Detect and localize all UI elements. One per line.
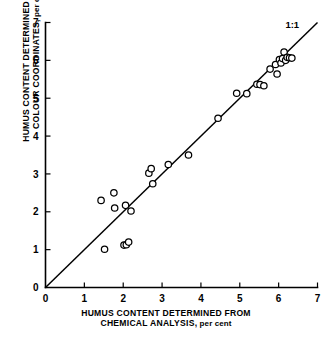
data-point	[122, 202, 128, 208]
y-axis-title-main: COLOUR COORDINATES,	[31, 19, 41, 129]
data-point	[165, 161, 171, 167]
data-point	[101, 246, 107, 252]
data-point	[148, 165, 154, 171]
data-point	[261, 83, 267, 89]
one-to-one-label: 1:1	[285, 19, 299, 30]
y-tick-label-1: 1	[33, 244, 39, 255]
x-axis-title-units: per cent	[197, 319, 231, 328]
data-point	[244, 90, 250, 96]
data-point	[233, 90, 239, 96]
data-point	[98, 197, 104, 203]
x-tick-label-3: 3	[159, 293, 165, 304]
x-tick-label-1: 1	[82, 293, 88, 304]
x-tick-label-7: 7	[315, 293, 321, 304]
data-points	[98, 49, 295, 253]
y-tick-label-2: 2	[33, 206, 39, 217]
data-point	[289, 55, 295, 61]
x-tick-label-6: 6	[276, 293, 282, 304]
data-point	[185, 152, 191, 158]
y-axis-title-line-1: HUMUS CONTENT DETERMINED FROM	[21, 0, 31, 177]
data-point	[150, 181, 156, 187]
y-tick-label-0: 0	[33, 282, 39, 293]
x-tick-label-4: 4	[198, 293, 204, 304]
scatter-plot-figure: 01234567 01234567 1:1 HUMUS CONTENT DETE…	[0, 0, 332, 345]
x-tick-label-2: 2	[120, 293, 126, 304]
x-tick-labels: 01234567	[43, 293, 321, 304]
data-point	[128, 208, 134, 214]
x-tick-label-0: 0	[43, 293, 49, 304]
x-tick-label-5: 5	[237, 293, 243, 304]
data-point	[125, 239, 131, 245]
annotation-1-to-1: 1:1	[285, 19, 299, 30]
x-axis-title-main: CHEMICAL ANALYSIS,	[100, 318, 197, 328]
data-point	[111, 205, 117, 211]
data-point	[267, 66, 273, 72]
data-point	[111, 190, 117, 196]
y-axis-title: HUMUS CONTENT DETERMINED FROM COLOUR COO…	[21, 0, 51, 177]
x-axis-title: HUMUS CONTENT DETERMINED FROM CHEMICAL A…	[0, 308, 332, 329]
x-axis-title-line-1: HUMUS CONTENT DETERMINED FROM	[0, 308, 332, 318]
y-axis-title-line-2: COLOUR COORDINATES, per cent	[31, 0, 41, 177]
data-point	[274, 71, 280, 77]
y-axis-title-units: per cent	[32, 0, 41, 19]
data-point	[215, 115, 221, 121]
x-axis-title-line-2: CHEMICAL ANALYSIS, per cent	[0, 318, 332, 328]
